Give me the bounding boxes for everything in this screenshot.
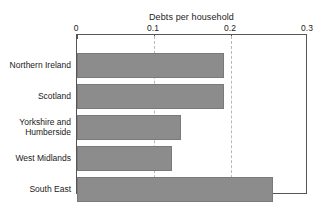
bar	[77, 115, 181, 140]
bar	[77, 53, 224, 78]
x-tick-label: 0	[74, 23, 79, 33]
bar	[77, 84, 224, 109]
category-label: South East	[0, 184, 71, 194]
bar	[77, 146, 172, 171]
x-tick-label: 0.3	[301, 23, 313, 33]
category-label-line: Humberside	[0, 127, 71, 137]
x-tick-label: 0.1	[147, 23, 159, 33]
category-label: West Midlands	[0, 153, 71, 163]
bar-chart: Debts per household 00.10.20.3 Northern …	[0, 0, 324, 210]
category-label: Scotland	[0, 91, 71, 101]
category-label-line: South East	[0, 184, 71, 194]
category-label: Yorkshire andHumberside	[0, 117, 71, 137]
category-label-line: Yorkshire and	[0, 117, 71, 127]
category-label: Northern Ireland	[0, 60, 71, 70]
x-tick-label: 0.2	[224, 23, 236, 33]
category-label-line: Northern Ireland	[0, 60, 71, 70]
x-tick-mark	[77, 35, 78, 39]
gridline	[231, 36, 232, 193]
plot-area	[76, 34, 307, 194]
chart-title: Debts per household	[76, 12, 307, 22]
category-label-line: Scotland	[0, 91, 71, 101]
category-label-line: West Midlands	[0, 153, 71, 163]
bar	[77, 177, 273, 202]
x-tick-mark	[306, 35, 307, 39]
